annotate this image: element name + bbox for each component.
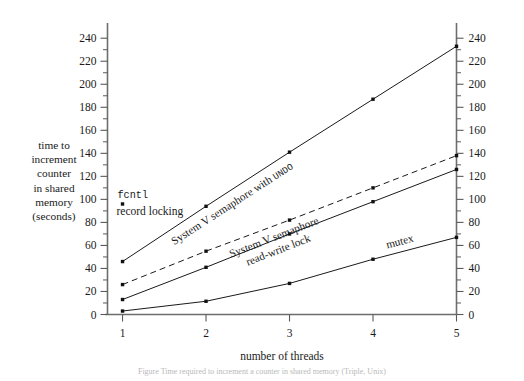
x-tick-label: 3: [287, 327, 293, 339]
y-tick-label-right: 120: [469, 170, 487, 182]
y-tick-label-right: 40: [469, 262, 481, 274]
data-point: [204, 300, 207, 303]
y-tick-label-right: 20: [469, 285, 481, 297]
y-tick-label-left: 60: [85, 239, 97, 251]
y-tick-label-left: 220: [79, 55, 97, 67]
y-tick-label-right: 100: [469, 193, 487, 205]
data-point: [288, 282, 291, 285]
annotations-group: fcntlrecord locking: [117, 190, 184, 218]
data-point: [455, 45, 458, 48]
ticks-group: [101, 38, 464, 321]
y-tick-label-left: 40: [85, 262, 97, 274]
data-point: [371, 98, 374, 101]
data-point: [371, 258, 374, 261]
y-tick-label-right: 240: [469, 32, 487, 44]
y-axis-label-line-1: time to: [8, 138, 100, 152]
fcntl-record-locking-label: record locking: [117, 205, 184, 218]
y-axis-label-line-4: in shared: [8, 181, 100, 195]
y-tick-label-left: 200: [79, 78, 97, 90]
y-tick-label-right: 80: [469, 216, 481, 228]
series-group: [123, 46, 457, 311]
figure-container: time to increment counter in shared memo…: [0, 0, 524, 381]
y-tick-label-right: 200: [469, 78, 487, 90]
data-point: [455, 168, 458, 171]
y-tick-label-right: 160: [469, 124, 487, 136]
y-tick-label-left: 240: [79, 32, 97, 44]
y-tick-label-right: 0: [469, 309, 475, 321]
x-tick-label: 1: [120, 327, 126, 339]
data-point: [121, 283, 124, 286]
data-point: [204, 249, 207, 252]
data-point: [121, 260, 124, 263]
data-point: [288, 150, 291, 153]
y-axis-label-line-5: memory: [8, 195, 100, 209]
x-axis-label-group: number of threads: [240, 350, 324, 362]
y-axis-label-line-6: (seconds): [8, 209, 100, 223]
y-axis-label-line-2: increment: [8, 152, 100, 166]
y-tick-label-left: 160: [79, 124, 97, 136]
data-point: [121, 298, 124, 301]
figure-caption: Figure Time required to increment a coun…: [0, 367, 524, 376]
data-point: [455, 236, 458, 239]
y-axis-label: time to increment counter in shared memo…: [8, 138, 100, 223]
y-tick-label-right: 60: [469, 239, 481, 251]
fcntl-mono-label: fcntl: [118, 190, 149, 201]
markers-group: [121, 45, 458, 313]
y-tick-label-right: 180: [469, 101, 487, 113]
y-tick-label-left: 20: [85, 285, 97, 297]
x-axis-label: number of threads: [240, 350, 324, 362]
data-point: [371, 200, 374, 203]
curve-label-mutex: mutex: [385, 232, 415, 251]
data-point: [455, 154, 458, 157]
y-axis-label-line-3: counter: [8, 166, 100, 180]
data-point: [371, 186, 374, 189]
y-tick-label-right: 220: [469, 55, 487, 67]
data-point: [204, 205, 207, 208]
data-point: [204, 266, 207, 269]
x-tick-label: 5: [454, 327, 460, 339]
y-tick-label-left: 180: [79, 101, 97, 113]
y-tick-label-right: 140: [469, 147, 487, 159]
x-tick-label: 2: [203, 327, 209, 339]
data-point: [121, 309, 124, 312]
x-tick-label: 4: [370, 327, 376, 339]
data-point: [288, 218, 291, 221]
y-tick-label-left: 0: [91, 309, 97, 321]
